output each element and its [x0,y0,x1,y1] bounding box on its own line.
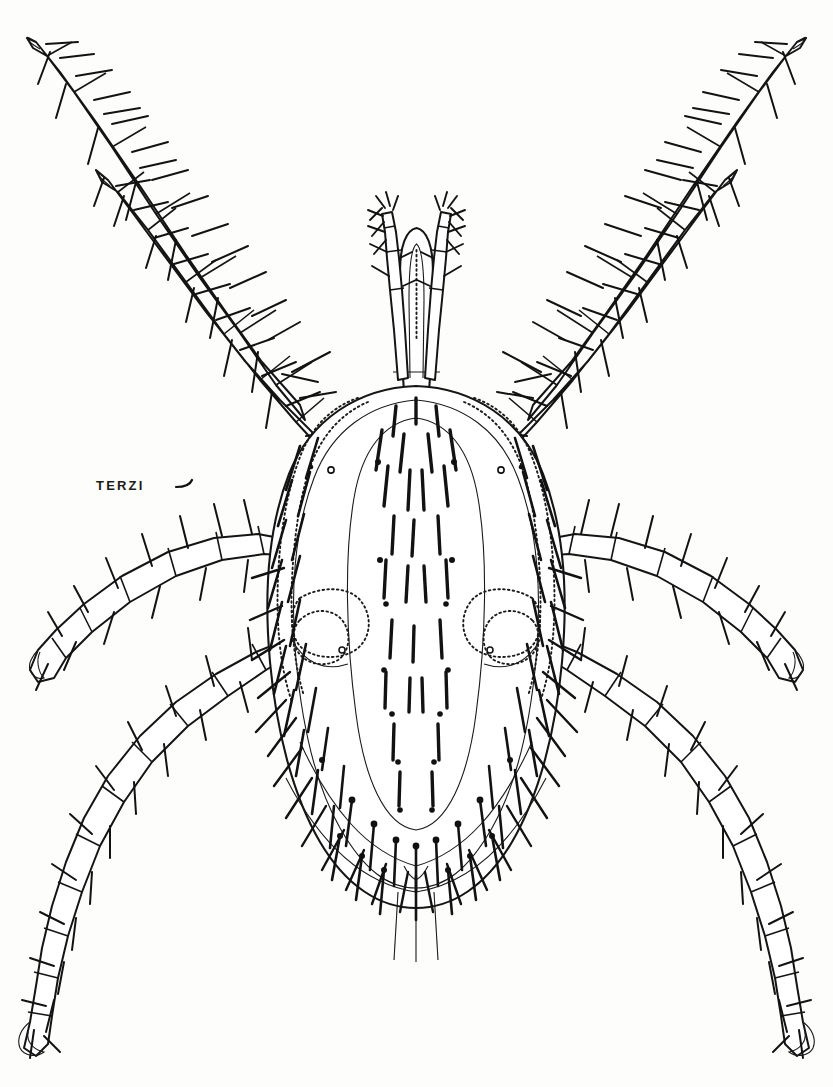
signature-text: TERZI [96,478,145,493]
figure-caption [0,1076,833,1087]
illustration-plate: TERZI [0,0,833,1087]
mite-dorsal-illustration: TERZI [0,0,833,1087]
